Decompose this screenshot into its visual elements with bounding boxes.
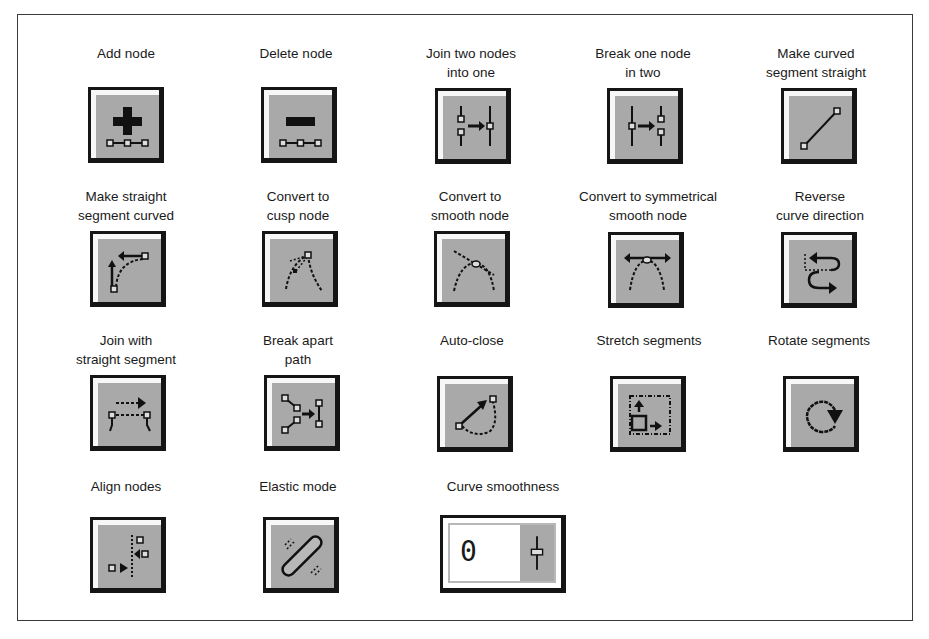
elastic-mode-button[interactable]	[263, 517, 339, 593]
break-apart-button[interactable]	[264, 375, 340, 451]
auto-close-icon	[445, 384, 508, 447]
plus-with-nodes-icon	[96, 95, 159, 158]
rotate-icon	[791, 384, 854, 447]
break-apart-icon	[272, 383, 335, 446]
convert-smooth-label: Convert tosmooth node	[385, 187, 555, 225]
align-nodes-label: Align nodes	[41, 477, 211, 496]
join-straight-icon	[98, 383, 161, 446]
reverse-direction-icon	[789, 240, 852, 303]
break-one-node-button[interactable]	[607, 88, 683, 164]
stretch-icon	[618, 384, 681, 447]
convert-cusp-label: Convert tocusp node	[213, 187, 383, 225]
join-two-nodes-button[interactable]	[435, 88, 511, 164]
join-straight-label: Join withstraight segment	[41, 331, 211, 369]
slider-icon	[520, 525, 554, 581]
stretch-segments-button[interactable]	[610, 376, 686, 452]
stretch-segments-label: Stretch segments	[564, 331, 734, 350]
break-node-icon	[615, 96, 678, 159]
add-node-label: Add node	[41, 44, 211, 63]
reverse-direction-label: Reversecurve direction	[735, 187, 905, 225]
smooth-node-icon	[442, 239, 505, 302]
reverse-direction-button[interactable]	[781, 232, 857, 308]
delete-node-button[interactable]	[261, 87, 337, 163]
curve-smoothness-label: Curve smoothness	[418, 477, 588, 496]
curve-smoothness-field[interactable]: 0	[448, 523, 556, 583]
curve-segment-icon	[98, 239, 161, 302]
auto-close-label: Auto-close	[387, 331, 557, 350]
cusp-node-icon	[270, 239, 333, 302]
align-nodes-icon	[98, 525, 161, 588]
curve-smoothness-value: 0	[460, 535, 477, 569]
add-node-button[interactable]	[88, 87, 164, 163]
make-curved-straight-label: Make curvedsegment straight	[731, 44, 901, 82]
convert-symmetrical-button[interactable]	[608, 232, 684, 308]
join-nodes-icon	[443, 96, 506, 159]
join-straight-button[interactable]	[90, 375, 166, 451]
make-curved-straight-button[interactable]	[781, 88, 857, 164]
curve-smoothness-control[interactable]: 0	[440, 515, 566, 593]
convert-cusp-button[interactable]	[262, 231, 338, 307]
join-two-nodes-label: Join two nodesinto one	[386, 44, 556, 82]
curve-smoothness-slider[interactable]	[520, 525, 554, 581]
break-apart-label: Break apartpath	[213, 331, 383, 369]
straight-line-icon	[789, 96, 852, 159]
convert-symmetrical-label: Convert to symmetricalsmooth node	[563, 187, 733, 225]
delete-node-label: Delete node	[211, 44, 381, 63]
symmetrical-node-icon	[616, 240, 679, 303]
elastic-mode-label: Elastic mode	[213, 477, 383, 496]
minus-with-nodes-icon	[269, 95, 332, 158]
make-straight-curved-button[interactable]	[90, 231, 166, 307]
elastic-icon	[271, 525, 334, 588]
convert-smooth-button[interactable]	[434, 231, 510, 307]
break-one-node-label: Break one nodein two	[558, 44, 728, 82]
auto-close-button[interactable]	[437, 376, 513, 452]
make-straight-curved-label: Make straightsegment curved	[41, 187, 211, 225]
align-nodes-button[interactable]	[90, 517, 166, 593]
rotate-segments-label: Rotate segments	[734, 331, 904, 350]
rotate-segments-button[interactable]	[783, 376, 859, 452]
